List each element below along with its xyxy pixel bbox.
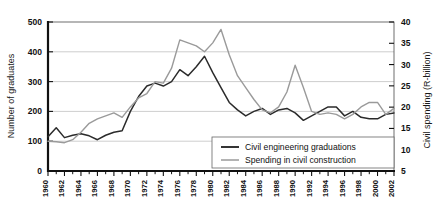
left-axis-title: Number of graduates — [6, 53, 16, 138]
left-tick-label: 400 — [28, 47, 42, 57]
right-tick-label: 15 — [401, 123, 411, 133]
x-tick-label: 1970 — [123, 180, 132, 197]
x-tick-label: 1994 — [321, 179, 330, 197]
x-tick-label: 1984 — [239, 179, 248, 197]
x-tick-label: 1988 — [272, 180, 281, 197]
gridlines — [48, 52, 394, 141]
series-layer — [48, 29, 394, 142]
right-tick-label: 35 — [401, 38, 411, 48]
x-tick-label: 1986 — [255, 180, 264, 197]
legend-label-1: Civil engineering graduations — [245, 142, 356, 152]
x-tick-label: 1974 — [156, 179, 165, 197]
x-tick-label: 2000 — [371, 180, 380, 197]
x-tick-label: 1964 — [74, 179, 83, 197]
right-tick-label: 30 — [401, 60, 411, 70]
right-axis-title: Civil spending (R-billion) — [422, 51, 432, 148]
x-tick-label: 2002 — [387, 180, 396, 197]
right-tick-label: 5 — [401, 166, 406, 176]
left-tick-label: 300 — [28, 77, 42, 87]
chart-legend: Civil engineering graduationsSpending in… — [212, 137, 394, 168]
right-tick-label: 25 — [401, 81, 411, 91]
right-tick-label: 40 — [401, 17, 411, 27]
x-axis-labels: 1960196219641966196819701972197419761978… — [41, 179, 396, 197]
legend-label-2: Spending in civil construction — [245, 155, 356, 165]
x-tick-label: 1992 — [305, 180, 314, 197]
x-tick-label: 1990 — [288, 180, 297, 197]
x-tick-label: 1972 — [140, 180, 149, 197]
left-axis-ticks: 0100200300400500 — [28, 17, 53, 176]
left-tick-label: 100 — [28, 136, 42, 146]
series-line-1 — [48, 56, 394, 139]
x-tick-label: 1960 — [41, 180, 50, 197]
x-tick-label: 1982 — [222, 180, 231, 197]
chart-container: 0100200300400500 510152025303540 1960196… — [0, 0, 444, 214]
right-tick-label: 10 — [401, 145, 411, 155]
x-tick-label: 1976 — [173, 180, 182, 197]
x-tick-label: 1996 — [338, 180, 347, 197]
x-tick-label: 1978 — [189, 180, 198, 197]
x-tick-label: 1966 — [90, 180, 99, 197]
x-tick-label: 1998 — [354, 180, 363, 197]
left-tick-label: 500 — [28, 17, 42, 27]
x-tick-label: 1962 — [57, 180, 66, 197]
left-tick-label: 200 — [28, 106, 42, 116]
left-tick-label: 0 — [37, 166, 42, 176]
x-tick-label: 1980 — [206, 180, 215, 197]
right-tick-label: 20 — [401, 102, 411, 112]
x-tick-label: 1968 — [107, 180, 116, 197]
line-chart: 0100200300400500 510152025303540 1960196… — [0, 0, 444, 214]
